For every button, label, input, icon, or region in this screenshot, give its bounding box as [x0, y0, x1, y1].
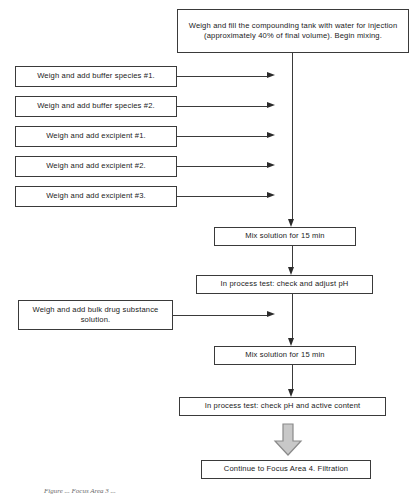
connector-excipient-2 — [177, 166, 267, 167]
connector-trunk-main — [292, 53, 293, 219]
node-in-process-test-ph: In process test: check and adjust pH — [196, 275, 373, 294]
connector-buffer-2 — [177, 106, 267, 107]
node-in-process-test-ph-active: In process test: check pH and active con… — [179, 397, 386, 416]
arrowhead-bulk-drug — [267, 311, 275, 317]
arrowhead-excipient-2 — [267, 162, 275, 168]
flowchart-diagram: Weigh and fill the compounding tank with… — [0, 0, 416, 494]
arrowhead-testph-to-mix2 — [288, 338, 294, 346]
node-start-tank: Weigh and fill the compounding tank with… — [177, 9, 409, 53]
connector-buffer-1 — [177, 76, 267, 77]
arrowhead-buffer-1 — [267, 72, 275, 78]
node-excipient-2: Weigh and add excipient #2. — [15, 156, 177, 177]
connector-excipient-1 — [177, 136, 267, 137]
figure-caption: Figure ... Focus Area 3 ... — [44, 487, 116, 494]
arrowhead-mix1-to-testph — [288, 267, 294, 275]
connector-bulk-drug — [173, 315, 267, 316]
node-mix-solution-2: Mix solution for 15 min — [214, 346, 356, 365]
node-buffer-species-2: Weigh and add buffer species #2. — [15, 96, 177, 117]
node-buffer-species-1: Weigh and add buffer species #1. — [15, 66, 177, 87]
node-excipient-1: Weigh and add excipient #1. — [15, 126, 177, 147]
connector-excipient-3 — [177, 196, 267, 197]
arrowhead-trunk-to-mix1 — [288, 219, 294, 227]
arrowhead-buffer-2 — [267, 102, 275, 108]
node-excipient-3: Weigh and add excipient #3. — [15, 186, 177, 207]
arrowhead-excipient-1 — [267, 132, 275, 138]
node-bulk-drug-substance: Weigh and add bulk drug substance soluti… — [18, 300, 173, 330]
node-continue-focus-area-4: Continue to Focus Area 4. Filtration — [201, 460, 371, 479]
connector-testph-to-mix2 — [292, 294, 293, 338]
arrowhead-excipient-3 — [267, 192, 275, 198]
connector-mix2-to-testactive — [292, 365, 293, 389]
arrowhead-mix2-to-testactive — [288, 389, 294, 397]
node-mix-solution-1: Mix solution for 15 min — [214, 227, 356, 246]
connector-mix1-to-testph — [292, 246, 293, 267]
block-arrow-down-icon — [273, 423, 303, 456]
